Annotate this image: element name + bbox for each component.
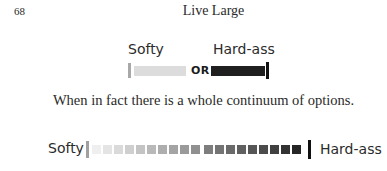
continuum-square bbox=[147, 145, 156, 154]
body-sentence: When in fact there is a whole continuum … bbox=[0, 92, 387, 109]
continuum-square bbox=[237, 145, 246, 154]
binary-hardass-label: Hard-ass bbox=[213, 41, 275, 57]
continuum-square bbox=[125, 145, 134, 154]
continuum-square bbox=[169, 145, 178, 154]
binary-or-label: OR bbox=[191, 64, 210, 77]
continuum-square bbox=[215, 145, 224, 154]
running-head: Live Large bbox=[0, 3, 387, 19]
continuum-square bbox=[92, 145, 101, 154]
continuum-square bbox=[270, 145, 279, 154]
continuum-square bbox=[180, 145, 189, 154]
continuum-square bbox=[292, 145, 301, 154]
continuum-light-squares bbox=[92, 145, 200, 154]
continuum-square bbox=[191, 145, 200, 154]
continuum-square bbox=[248, 145, 257, 154]
continuum-right-marker bbox=[308, 140, 311, 159]
continuum-left-marker bbox=[86, 141, 89, 158]
continuum-softy-label: Softy bbox=[48, 140, 84, 156]
binary-left-marker bbox=[128, 63, 131, 78]
continuum-square bbox=[204, 145, 213, 154]
binary-dark-bar bbox=[211, 66, 265, 76]
continuum-square bbox=[114, 145, 123, 154]
continuum-square bbox=[281, 145, 290, 154]
binary-right-marker bbox=[266, 62, 269, 79]
continuum-square bbox=[226, 145, 235, 154]
binary-light-bar bbox=[134, 66, 186, 76]
continuum-square bbox=[259, 145, 268, 154]
binary-softy-label: Softy bbox=[128, 41, 164, 57]
continuum-square bbox=[103, 145, 112, 154]
continuum-hardass-label: Hard-ass bbox=[320, 141, 382, 157]
continuum-dark-squares bbox=[204, 145, 301, 154]
continuum-square bbox=[136, 145, 145, 154]
continuum-square bbox=[158, 145, 167, 154]
